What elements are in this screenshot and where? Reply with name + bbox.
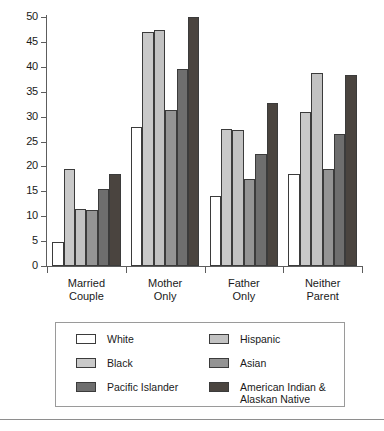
bar <box>221 129 232 266</box>
x-axis-group-label: MotherOnly <box>126 277 205 303</box>
x-axis-group-label: MarriedCouple <box>47 277 126 303</box>
legend-item: Pacific Islander <box>76 381 178 393</box>
y-tick-label-0: 0 <box>0 260 38 271</box>
x-axis-group-label: NeitherParent <box>283 277 362 303</box>
chart-page: 50454035302520151050 MarriedCoupleMother… <box>0 0 384 431</box>
x-tick-4 <box>362 266 363 273</box>
legend-swatch-icon <box>76 382 96 392</box>
bar <box>142 32 153 266</box>
y-tick-label-20: 20 <box>0 160 38 171</box>
legend-swatch-icon <box>209 358 229 368</box>
y-tick-label-45: 45 <box>0 36 38 47</box>
bar <box>64 169 75 266</box>
x-tick-3 <box>283 266 284 273</box>
x-tick-2 <box>205 266 206 273</box>
legend-label: American Indian & Alaskan Native <box>240 381 326 405</box>
legend-item: Black <box>76 357 133 369</box>
bar <box>334 134 345 266</box>
y-tick-label-40: 40 <box>0 61 38 72</box>
bar <box>267 103 278 266</box>
legend-label: Hispanic <box>240 333 280 345</box>
y-tick-label-10: 10 <box>0 210 38 221</box>
legend-label: Black <box>107 357 133 369</box>
bar <box>86 210 97 266</box>
y-tick-label-25: 25 <box>0 136 38 147</box>
legend-label: Pacific Islander <box>107 381 178 393</box>
bottom-divider <box>0 419 384 420</box>
bar <box>177 69 188 266</box>
y-tick-label-50: 50 <box>0 11 38 22</box>
legend-swatch-icon <box>76 334 96 344</box>
bar <box>232 130 243 266</box>
chart-legend: WhiteHispanicBlackAsianPacific IslanderA… <box>55 322 345 407</box>
legend-item: Hispanic <box>209 333 280 345</box>
bar <box>345 75 356 266</box>
bar <box>98 189 109 266</box>
bar <box>154 30 165 266</box>
bar <box>188 17 199 266</box>
bar <box>210 196 221 266</box>
bar <box>131 127 142 266</box>
legend-label: White <box>107 333 134 345</box>
bar <box>311 73 322 266</box>
bar <box>109 174 120 266</box>
legend-label: Asian <box>240 357 266 369</box>
x-axis-group-label: FatherOnly <box>205 277 284 303</box>
bar <box>323 169 334 266</box>
bar <box>52 242 63 266</box>
x-tick-1 <box>126 266 127 273</box>
bar-chart-figure: 50454035302520151050 MarriedCoupleMother… <box>0 0 384 312</box>
bar <box>75 209 86 266</box>
legend-item: American Indian & Alaskan Native <box>209 381 326 405</box>
legend-swatch-icon <box>76 358 96 368</box>
legend-swatch-icon <box>209 334 229 344</box>
legend-swatch-icon <box>209 382 229 392</box>
bar <box>255 154 266 266</box>
x-tick-0 <box>47 266 48 273</box>
legend-item: White <box>76 333 134 345</box>
y-tick-label-30: 30 <box>0 111 38 122</box>
plot-area <box>47 17 362 266</box>
bar <box>165 110 176 266</box>
bar <box>288 174 299 266</box>
y-tick-label-35: 35 <box>0 86 38 97</box>
y-tick-label-5: 5 <box>0 235 38 246</box>
bar <box>244 179 255 266</box>
legend-item: Asian <box>209 357 266 369</box>
bar <box>300 112 311 266</box>
y-tick-label-15: 15 <box>0 185 38 196</box>
